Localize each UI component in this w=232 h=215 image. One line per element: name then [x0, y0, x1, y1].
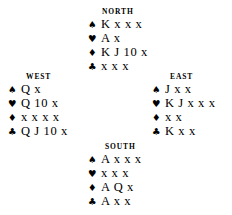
suit-row-south-spade: ♠ A x x x — [88, 152, 142, 166]
cards-east-spade: J x x — [165, 82, 192, 96]
heart-icon: ♥ — [88, 167, 101, 181]
cards-east-heart: K J x x x — [165, 96, 216, 110]
suit-row-east-club: ♣ K x x — [152, 124, 216, 138]
heart-icon: ♥ — [88, 32, 101, 46]
cards-west-spade: Q x — [21, 82, 41, 96]
suit-row-west-diamond: ♦ x x x x — [8, 110, 68, 124]
hand-label-north: NORTH — [102, 6, 148, 17]
suit-row-south-club: ♣ A x x — [88, 194, 142, 208]
hand-south: SOUTH ♠ A x x x ♥ x x x ♦ A Q x ♣ A x x — [88, 141, 142, 208]
diamond-icon: ♦ — [152, 111, 165, 125]
spade-icon: ♠ — [88, 18, 101, 32]
heart-icon: ♥ — [8, 97, 21, 111]
hand-east: EAST ♠ J x x ♥ K J x x x ♦ x x ♣ K x x — [152, 71, 216, 138]
suit-row-north-club: ♣ x x x — [88, 59, 148, 73]
club-icon: ♣ — [88, 60, 101, 74]
club-icon: ♣ — [152, 125, 165, 139]
suit-row-west-club: ♣ Q J 10 x — [8, 124, 68, 138]
cards-south-diamond: A Q x — [101, 180, 134, 194]
club-icon: ♣ — [88, 195, 101, 209]
cards-north-spade: K x x x — [101, 17, 142, 31]
spade-icon: ♠ — [152, 83, 165, 97]
cards-south-spade: A x x x — [101, 152, 142, 166]
cards-north-diamond: K J 10 x — [101, 45, 148, 59]
suit-row-east-spade: ♠ J x x — [152, 82, 216, 96]
hand-label-west: WEST — [26, 71, 68, 82]
club-icon: ♣ — [8, 125, 21, 139]
cards-west-diamond: x x x x — [21, 110, 60, 124]
cards-west-club: Q J 10 x — [21, 124, 68, 138]
suit-row-south-heart: ♥ x x x — [88, 166, 142, 180]
suit-row-north-spade: ♠ K x x x — [88, 17, 148, 31]
cards-east-diamond: x x — [165, 110, 182, 124]
diamond-icon: ♦ — [88, 46, 101, 60]
cards-west-heart: Q 10 x — [21, 96, 59, 110]
heart-icon: ♥ — [152, 97, 165, 111]
hand-label-south: SOUTH — [105, 141, 142, 152]
cards-east-club: K x x — [165, 124, 196, 138]
spade-icon: ♠ — [8, 83, 21, 97]
cards-north-club: x x x — [101, 59, 129, 73]
suit-row-north-heart: ♥ A x — [88, 31, 148, 45]
cards-south-club: A x x — [101, 194, 131, 208]
diamond-icon: ♦ — [8, 111, 21, 125]
suit-row-east-heart: ♥ K J x x x — [152, 96, 216, 110]
suit-row-west-heart: ♥ Q 10 x — [8, 96, 68, 110]
spade-icon: ♠ — [88, 153, 101, 167]
cards-north-heart: A x — [101, 31, 121, 45]
hand-north: NORTH ♠ K x x x ♥ A x ♦ K J 10 x ♣ x x x — [88, 6, 148, 73]
bridge-hand-diagram: NORTH ♠ K x x x ♥ A x ♦ K J 10 x ♣ x x x… — [0, 0, 232, 215]
suit-row-north-diamond: ♦ K J 10 x — [88, 45, 148, 59]
suit-row-east-diamond: ♦ x x — [152, 110, 216, 124]
diamond-icon: ♦ — [88, 181, 101, 195]
cards-south-heart: x x x — [101, 166, 129, 180]
suit-row-west-spade: ♠ Q x — [8, 82, 68, 96]
hand-label-east: EAST — [170, 71, 216, 82]
suit-row-south-diamond: ♦ A Q x — [88, 180, 142, 194]
hand-west: WEST ♠ Q x ♥ Q 10 x ♦ x x x x ♣ Q J 10 x — [8, 71, 68, 138]
